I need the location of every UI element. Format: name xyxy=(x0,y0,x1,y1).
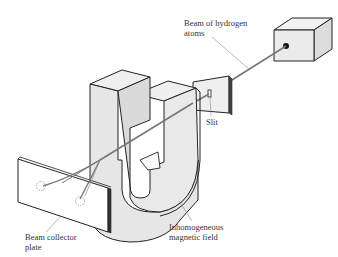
slit-plate xyxy=(193,76,232,115)
collector-label: Beam collector plate xyxy=(25,232,77,252)
hydrogen-beam-incoming xyxy=(232,46,286,80)
collector-leader-line xyxy=(46,217,60,232)
beam-source-label: Beam of hydrogen atoms xyxy=(184,18,247,38)
beam-source-leader-line xyxy=(212,37,250,70)
atom-source-box xyxy=(274,18,332,61)
magnet-label: Inhomogeneous magnetic field xyxy=(169,222,223,242)
slit-label: Slit xyxy=(206,117,218,127)
stern-gerlach-diagram xyxy=(0,0,338,257)
